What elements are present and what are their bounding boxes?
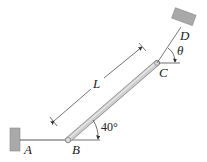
label-c: C xyxy=(159,65,168,80)
left-wall-support xyxy=(10,128,20,151)
top-wall-support xyxy=(172,8,196,26)
angle-arc-c xyxy=(168,48,175,62)
label-angle-40: 40° xyxy=(101,120,118,134)
label-b: B xyxy=(72,142,80,157)
label-a: A xyxy=(23,142,32,157)
label-d: D xyxy=(179,28,190,43)
pin-b xyxy=(65,137,70,142)
label-l: L xyxy=(92,76,100,91)
angle-arc-b xyxy=(93,120,98,139)
rod-cable-diagram: A B C D L θ 40° xyxy=(0,0,207,162)
label-theta: θ xyxy=(177,43,184,58)
